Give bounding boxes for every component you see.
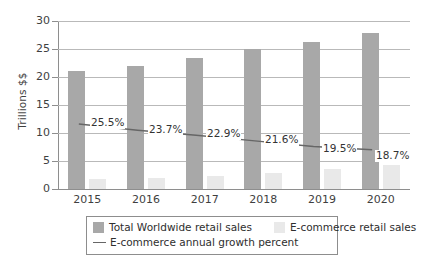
plot-area bbox=[58, 21, 410, 189]
chart-container: Trillions $$ 051015202530 25.5%23.7%22.9… bbox=[0, 0, 427, 272]
legend-label-growth: E-commerce annual growth percent bbox=[110, 237, 298, 249]
y-tick-mark-0 bbox=[52, 189, 58, 190]
y-tick-label-25: 25 bbox=[4, 43, 50, 54]
legend-row-bars: Total Worldwide retail sales E-commerce … bbox=[93, 220, 331, 235]
growth-label-2020: 18.7% bbox=[375, 150, 410, 162]
legend-row-line: E-commerce annual growth percent bbox=[93, 235, 331, 250]
legend-swatch-ecommerce-icon bbox=[274, 222, 285, 233]
y-tick-label-30: 30 bbox=[4, 15, 50, 26]
y-tick-label-0: 0 bbox=[4, 183, 50, 194]
legend-item-ecommerce[interactable]: E-commerce retail sales bbox=[274, 222, 416, 234]
growth-line bbox=[58, 21, 410, 189]
y-tick-mark-25 bbox=[52, 49, 58, 50]
x-tick-label-2018: 2018 bbox=[249, 193, 277, 206]
x-axis-tick-labels: 201520162017201820192020 bbox=[58, 193, 410, 211]
y-tick-mark-20 bbox=[52, 77, 58, 78]
legend-item-growth[interactable]: E-commerce annual growth percent bbox=[93, 237, 298, 249]
x-axis-line bbox=[58, 189, 410, 190]
legend-line-marker-icon bbox=[93, 237, 106, 248]
legend-label-total: Total Worldwide retail sales bbox=[109, 222, 252, 234]
growth-label-2018: 21.6% bbox=[264, 134, 299, 146]
y-tick-label-5: 5 bbox=[4, 155, 50, 166]
legend-swatch-total-icon bbox=[93, 222, 104, 233]
x-tick-label-2020: 2020 bbox=[367, 193, 395, 206]
x-tick-label-2015: 2015 bbox=[73, 193, 101, 206]
growth-label-2016: 23.7% bbox=[148, 124, 183, 136]
growth-label-2015: 25.5% bbox=[90, 117, 125, 129]
y-tick-mark-5 bbox=[52, 161, 58, 162]
x-tick-label-2016: 2016 bbox=[132, 193, 160, 206]
y-tick-mark-30 bbox=[52, 21, 58, 22]
legend-label-ecommerce: E-commerce retail sales bbox=[290, 222, 416, 234]
y-tick-label-15: 15 bbox=[4, 99, 50, 110]
chart-legend: Total Worldwide retail sales E-commerce … bbox=[86, 216, 338, 255]
y-axis-tick-labels: 051015202530 bbox=[0, 0, 50, 272]
y-tick-label-20: 20 bbox=[4, 71, 50, 82]
growth-label-2017: 22.9% bbox=[206, 128, 241, 140]
x-tick-label-2019: 2019 bbox=[308, 193, 336, 206]
y-tick-mark-15 bbox=[52, 105, 58, 106]
legend-item-total[interactable]: Total Worldwide retail sales bbox=[93, 222, 252, 234]
y-tick-mark-10 bbox=[52, 133, 58, 134]
growth-label-2019: 19.5% bbox=[322, 143, 357, 155]
x-tick-label-2017: 2017 bbox=[191, 193, 219, 206]
y-tick-label-10: 10 bbox=[4, 127, 50, 138]
